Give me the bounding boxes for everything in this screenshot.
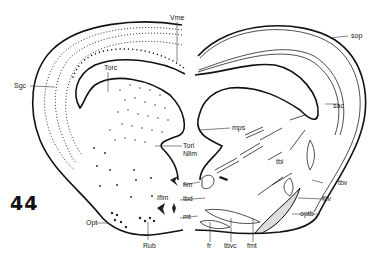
- label-sac: sac: [333, 102, 344, 109]
- label-optb: optb: [300, 210, 314, 218]
- sgc-dots-inner: [72, 49, 184, 80]
- right-tectum-inner: [195, 64, 318, 180]
- torus-dots: [109, 84, 168, 142]
- label-torl: Torl: [183, 142, 195, 149]
- label-vme: Vme: [170, 14, 185, 21]
- left-outer-outline: [33, 22, 183, 235]
- tbvc-bundle: [205, 209, 260, 223]
- optb-bundle: [255, 188, 300, 233]
- label-opt: Opt: [86, 219, 97, 227]
- label-fr: fr: [207, 242, 212, 249]
- lower-left-markers: [93, 147, 178, 228]
- label-iflm: Iflm: [157, 194, 168, 201]
- label-flm: flm: [183, 181, 193, 188]
- tbv-bundle: [307, 140, 315, 170]
- section-number: 44: [10, 192, 38, 214]
- right-sac-lines-2: [199, 50, 344, 135]
- label-fmt: fmt: [247, 242, 257, 249]
- tbi-fibers: [215, 115, 305, 195]
- leader-lines: [30, 22, 348, 242]
- right-sac-lines: [198, 54, 339, 135]
- label-sgc: Sgc: [14, 82, 27, 90]
- right-outer-outline-inner: [200, 30, 360, 212]
- sgc-dots-outer: [45, 28, 182, 170]
- label-rub: Rub: [143, 242, 156, 249]
- label-mt: mt: [183, 213, 191, 220]
- label-tbv: tbv: [338, 179, 348, 186]
- label-sop: sop: [351, 32, 362, 40]
- fr-bundle: [200, 220, 230, 228]
- fltv-bundle: [284, 178, 293, 196]
- label-nllm: Nllm: [183, 150, 197, 157]
- sgc-dots-band: [66, 41, 182, 155]
- label-fltv: fltv: [322, 195, 331, 202]
- sgc-dots-mid: [55, 33, 182, 163]
- brain-section-figure: Vme Sgc Torc Torl Nllm mps sop sac tbi t…: [0, 0, 382, 258]
- flm-bundle: [202, 175, 214, 188]
- label-mps: mps: [232, 124, 246, 132]
- right-outer-outline: [195, 26, 366, 234]
- label-tbi: tbi: [276, 158, 284, 165]
- flm-arrow: [219, 176, 228, 181]
- label-tbd: tbd: [183, 195, 193, 202]
- label-torc: Torc: [104, 64, 118, 71]
- label-tbvc: tbvc: [224, 242, 237, 249]
